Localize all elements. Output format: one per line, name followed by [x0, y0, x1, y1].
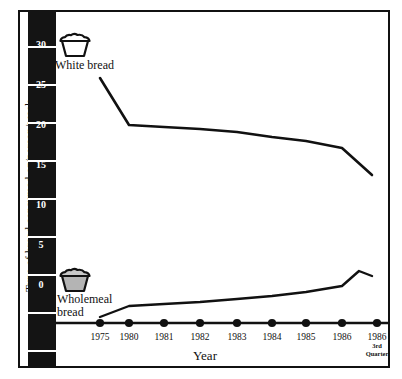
- x-tick-sublabel-line1: 3rd: [366, 342, 389, 350]
- x-tick-label-year: 1986: [368, 332, 387, 342]
- x-axis-caption: Year: [193, 348, 217, 364]
- x-tick-label-1981: 1981: [155, 332, 174, 342]
- y-tick-label-5: 5: [28, 239, 54, 250]
- y-tick-label-0: 0: [28, 279, 54, 290]
- bread-basket-filled-icon: [58, 267, 92, 293]
- x-tick-label-1985: 1985: [297, 332, 316, 342]
- x-tick-label-1984: 1984: [263, 332, 282, 342]
- y-axis-scale-band: 30 25 20 15 10 5 0: [28, 10, 56, 368]
- x-tick-label-1986: 1986: [333, 332, 352, 342]
- y-tick-label-25: 25: [28, 79, 54, 90]
- y-tick-label-15: 15: [28, 159, 54, 170]
- y-tick-label-30: 30: [28, 39, 54, 50]
- y-tick-label-20: 20: [28, 119, 54, 130]
- x-tick-label-1982: 1982: [191, 332, 210, 342]
- series-label-white-bread: White bread: [55, 59, 114, 72]
- x-tick-label-1983: 1983: [228, 332, 247, 342]
- x-tick-label-1980: 1980: [120, 332, 139, 342]
- x-tick-sublabel-line2: Quarter: [366, 350, 389, 358]
- band-segment: [28, 314, 56, 352]
- bread-basket-outline-icon: [58, 32, 92, 58]
- series-label-wholemeal-bread-line2: bread: [57, 306, 84, 319]
- x-tick-label-1975: 1975: [91, 332, 110, 342]
- x-tick-label-1986-3rd-quarter: 1986 3rd Quarter: [366, 332, 389, 357]
- y-tick-label-10: 10: [28, 199, 54, 210]
